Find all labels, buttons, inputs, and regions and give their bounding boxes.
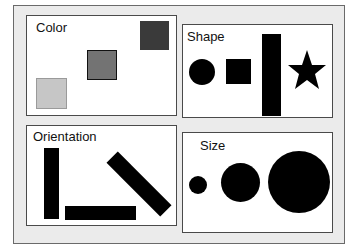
circle-shape: [189, 59, 215, 85]
panel-title-shape: Shape: [187, 29, 225, 44]
panel-color: Color: [26, 15, 177, 116]
medium-circle: [221, 163, 260, 202]
panel-title-size: Size: [200, 138, 225, 153]
large-circle: [268, 151, 330, 213]
panel-title-orientation: Orientation: [33, 129, 97, 144]
small-circle: [189, 176, 207, 194]
vertical-bar: [44, 148, 59, 219]
panel-shape: Shape: [182, 24, 333, 118]
panel-orientation: Orientation: [26, 125, 177, 226]
panel-title-color: Color: [36, 20, 67, 35]
star-icon: [287, 49, 327, 91]
swatch-light: [36, 78, 67, 109]
square-shape: [226, 59, 251, 84]
swatch-medium: [87, 50, 117, 80]
swatch-dark: [140, 21, 169, 50]
horizontal-bar: [65, 206, 136, 220]
tall-rectangle-shape: [262, 34, 281, 116]
panel-size: Size: [182, 132, 333, 233]
